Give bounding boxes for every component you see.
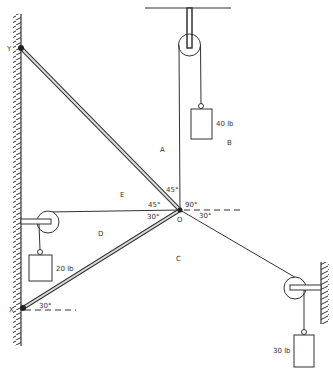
- region-A: A: [160, 146, 165, 154]
- point-O: [178, 208, 183, 213]
- point-X: [20, 305, 26, 311]
- left-pulley: [21, 211, 59, 233]
- hook-40lb: [199, 104, 204, 109]
- force-diagram: 40 lb 20 lb 30 lb Y X O A B C D E: [0, 0, 333, 375]
- angle-30-right: 30°: [199, 212, 211, 220]
- weight-40lb: [191, 109, 212, 139]
- weight-40lb-label: 40 lb: [216, 120, 234, 128]
- rope-40lb: [201, 45, 202, 104]
- region-D: D: [98, 230, 103, 238]
- label-Y: Y: [6, 45, 12, 53]
- label-O: O: [177, 216, 183, 224]
- weight-20lb-label: 20 lb: [56, 265, 74, 273]
- rope-diagonal-right: [180, 210, 298, 279]
- point-Y: [18, 45, 24, 51]
- top-pulley: [179, 8, 201, 56]
- weight-30lb-label: 30 lb: [273, 347, 291, 355]
- angle-90: 90°: [185, 201, 197, 209]
- right-pulley: [284, 277, 321, 299]
- angle-45-upper: 45°: [166, 186, 178, 194]
- region-C: C: [176, 255, 181, 263]
- weight-20lb: [29, 255, 52, 281]
- angle-30-left: 30°: [147, 213, 159, 221]
- weight-30lb: [294, 335, 314, 367]
- region-B: B: [227, 139, 232, 147]
- rope-horizontal: [48, 210, 180, 212]
- label-X: X: [9, 306, 14, 314]
- hook-30lb: [302, 330, 307, 335]
- rope-vertical: [179, 45, 180, 210]
- right-wall: [321, 262, 329, 324]
- angle-45-left: 45°: [148, 201, 160, 209]
- left-wall: [13, 14, 21, 346]
- region-E: E: [120, 191, 124, 199]
- strut-YO: [21, 48, 180, 210]
- hook-20lb: [38, 250, 43, 255]
- angle-30-X: 30°: [39, 302, 51, 310]
